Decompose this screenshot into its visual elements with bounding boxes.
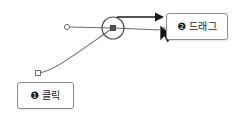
curve-start-square-handle[interactable] [36, 71, 41, 76]
step-2-badge: ❷ [177, 22, 186, 32]
callout-drag-label: 드래그 [189, 22, 217, 32]
callout-click-label: 클릭 [42, 91, 60, 101]
step-1-badge: ❶ [30, 91, 39, 101]
callout-drag: ❷ 드래그 [166, 13, 228, 40]
bezier-curve-path [38, 28, 113, 73]
right-tangent-handle-line [113, 28, 161, 30]
callout-click: ❶ 클릭 [17, 82, 74, 109]
anchor-point-square-handle[interactable] [111, 26, 116, 31]
left-tangent-endpoint-circle[interactable] [64, 24, 69, 29]
drag-direction-arrow-head [155, 13, 164, 22]
left-tangent-handle-line [69, 27, 113, 28]
